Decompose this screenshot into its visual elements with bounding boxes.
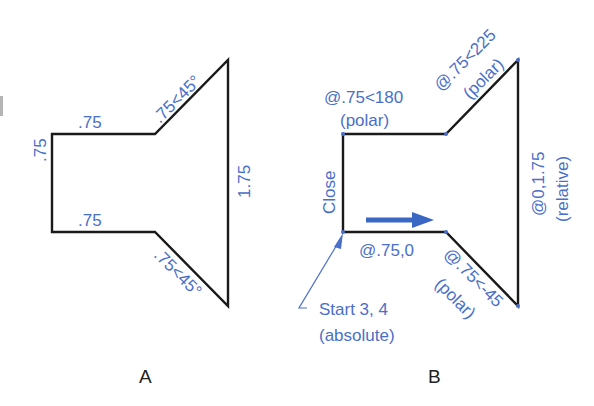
diagram-canvas: .75 .75 .75 1.75 .75<45° .75<45° A @.75<… (0, 0, 594, 406)
direction-arrow-icon (366, 212, 434, 228)
label-b-top-line2: (polar) (340, 111, 389, 130)
start-leader (299, 233, 343, 308)
label-b-right-line1: @0,1.75 (529, 151, 548, 216)
label-b-start-line2: (absolute) (319, 326, 395, 345)
figure-a-outline (52, 60, 228, 306)
label-a-top: .75 (78, 113, 102, 132)
label-a-upper-diagonal: .75<45° (149, 71, 204, 126)
label-b-right-line2: (relative) (553, 156, 572, 222)
figure-b: @.75<180 (polar) @.75<225 (polar) @0,1.7… (299, 25, 572, 387)
label-a-bottom: .75 (78, 211, 102, 230)
label-a-left: .75 (31, 138, 50, 162)
label-b-bottom: @.75,0 (359, 241, 414, 260)
figure-a: .75 .75 .75 1.75 .75<45° .75<45° A (31, 60, 254, 387)
label-b-start-line1: Start 3, 4 (319, 300, 388, 319)
label-b-top-line1: @.75<180 (324, 88, 403, 107)
label-a-right: 1.75 (235, 165, 254, 198)
edge-mark (0, 96, 3, 116)
caption-b: B (428, 366, 441, 387)
caption-a: A (139, 366, 152, 387)
label-b-close: Close (320, 171, 339, 214)
